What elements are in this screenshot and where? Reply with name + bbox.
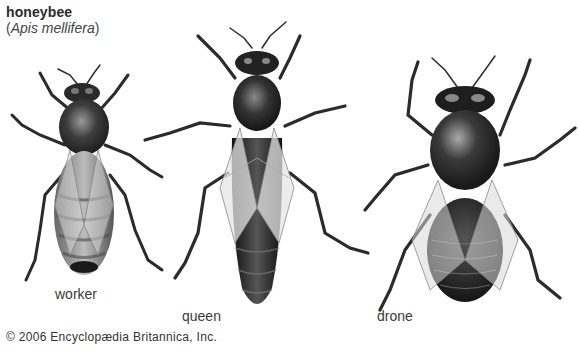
queen-label: queen — [182, 308, 221, 324]
drone-bee-illustration — [360, 40, 578, 320]
copyright-credit: © 2006 Encyclopædia Britannica, Inc. — [6, 330, 217, 344]
paren-close: ) — [95, 20, 100, 36]
honeybee-figure: honeybee (Apis mellifera) — [0, 0, 578, 350]
figure-title: honeybee — [6, 4, 72, 20]
scientific-name: (Apis mellifera) — [6, 20, 99, 36]
scientific-name-text: Apis mellifera — [11, 20, 95, 36]
worker-label: worker — [55, 286, 97, 302]
queen-bee-illustration — [140, 8, 370, 323]
drone-label: drone — [377, 308, 413, 324]
